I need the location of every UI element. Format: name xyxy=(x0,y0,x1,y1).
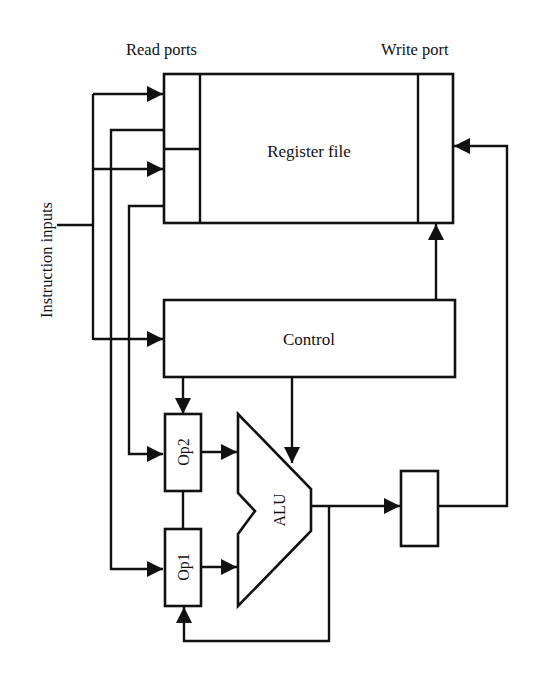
register-file-block: Register file xyxy=(164,74,453,223)
read-port-2-to-op2 xyxy=(129,206,164,454)
instruction-inputs-label: Instruction inputs xyxy=(37,202,56,318)
register-file-label: Register file xyxy=(267,142,351,161)
alu-block: ALU xyxy=(238,414,311,606)
op1-block: Op1 xyxy=(165,529,201,606)
op2-label: Op2 xyxy=(175,438,193,466)
control-label: Control xyxy=(283,330,335,349)
output-register-block xyxy=(401,471,438,546)
op1-label: Op1 xyxy=(175,553,193,581)
op2-block: Op2 xyxy=(165,414,201,491)
write-port-label: Write port xyxy=(381,40,449,59)
alu-label: ALU xyxy=(271,493,288,526)
read-ports-label: Read ports xyxy=(126,40,197,59)
read-port-1-to-op1 xyxy=(111,130,164,569)
datapath-diagram: Read ports Write port Instruction inputs… xyxy=(0,0,538,676)
control-block: Control xyxy=(164,300,455,377)
